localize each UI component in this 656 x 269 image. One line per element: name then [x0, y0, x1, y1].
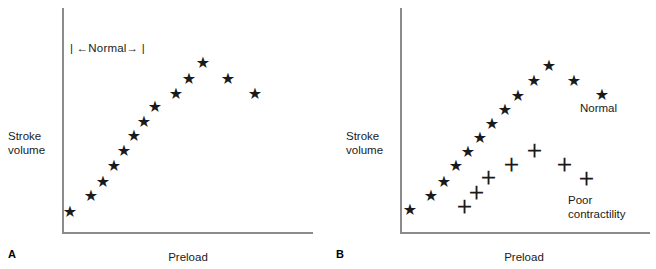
panel-a-data-point: ★ — [107, 158, 121, 174]
panel-b-data-point-normal: ★ — [511, 88, 525, 104]
panel-b-data-point-poor: ＋ — [556, 157, 573, 174]
panel-a-data-point: ★ — [117, 143, 131, 159]
panel-b-data-point-poor: ＋ — [480, 170, 497, 187]
panel-a-x-axis-label: Preload — [132, 250, 244, 264]
panel-a-x-axis — [62, 232, 313, 234]
panel-a-data-point: ★ — [137, 114, 151, 130]
frank-starling-figure: Stroke volume Preload A | ←Normal→ | ★ ★… — [0, 0, 656, 269]
panel-a-y-axis-label-line1: Stroke — [8, 129, 62, 143]
panel-a-data-point: ★ — [169, 86, 183, 102]
panel-a-data-point: ★ — [248, 86, 262, 102]
panel-a-letter: A — [8, 248, 16, 260]
panel-b-y-axis-label-line2: volume — [346, 143, 400, 157]
panel-a: Stroke volume Preload A | ←Normal→ | ★ ★… — [0, 0, 328, 269]
panel-a-data-point: ★ — [182, 71, 196, 87]
panel-a-y-axis-label-line2: volume — [8, 143, 62, 157]
panel-b: Stroke volume Preload B Normal Poor cont… — [328, 0, 656, 269]
panel-b-data-point-normal: ★ — [567, 73, 581, 89]
panel-a-plot-area — [62, 8, 313, 232]
panel-a-data-point: ★ — [96, 174, 110, 190]
panel-a-data-point: ★ — [221, 71, 235, 87]
panel-b-data-point-normal: ★ — [542, 58, 556, 74]
panel-a-data-point: ★ — [63, 204, 77, 220]
panel-b-y-axis-label: Stroke volume — [346, 129, 400, 158]
panel-b-data-point-poor: ＋ — [526, 143, 543, 160]
panel-b-data-point-normal: ★ — [595, 87, 609, 103]
panel-b-data-point-normal: ★ — [527, 73, 541, 89]
panel-b-x-axis — [400, 232, 650, 234]
panel-b-x-axis-label: Preload — [468, 250, 580, 264]
panel-a-data-point: ★ — [196, 55, 210, 71]
panel-b-y-axis-label-line1: Stroke — [346, 129, 400, 143]
panel-b-data-point-poor: ＋ — [578, 171, 595, 188]
panel-b-data-point-normal: ★ — [403, 202, 417, 218]
panel-a-y-axis-label: Stroke volume — [8, 129, 62, 158]
panel-b-data-point-poor: ＋ — [503, 157, 520, 174]
panel-b-data-point-normal: ★ — [437, 174, 451, 190]
panel-b-letter: B — [336, 248, 344, 260]
panel-a-data-point: ★ — [148, 99, 162, 115]
